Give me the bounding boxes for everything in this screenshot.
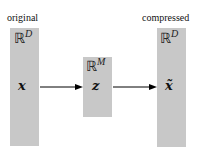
arrows-layer [0, 0, 200, 157]
arrow-icon-z-to-xtilde [113, 84, 157, 90]
arrow-icon-x-to-z [40, 84, 83, 90]
